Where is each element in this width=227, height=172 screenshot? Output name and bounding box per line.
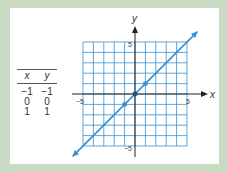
y-axis-label: y bbox=[131, 13, 138, 24]
y-tick-neg5: −5 bbox=[124, 145, 132, 152]
x-tick-5: 5 bbox=[186, 98, 190, 105]
x-tick-neg5: −5 bbox=[76, 98, 84, 105]
y-tick-5: 5 bbox=[128, 41, 132, 48]
y-axis-arrow-icon bbox=[132, 26, 138, 33]
coordinate-plane: x y −5 5 5 −5 bbox=[0, 0, 227, 172]
data-point bbox=[122, 102, 127, 107]
data-point bbox=[133, 92, 138, 97]
data-point bbox=[143, 81, 148, 86]
x-axis-arrow-icon bbox=[201, 91, 208, 97]
x-axis-label: x bbox=[209, 89, 216, 100]
